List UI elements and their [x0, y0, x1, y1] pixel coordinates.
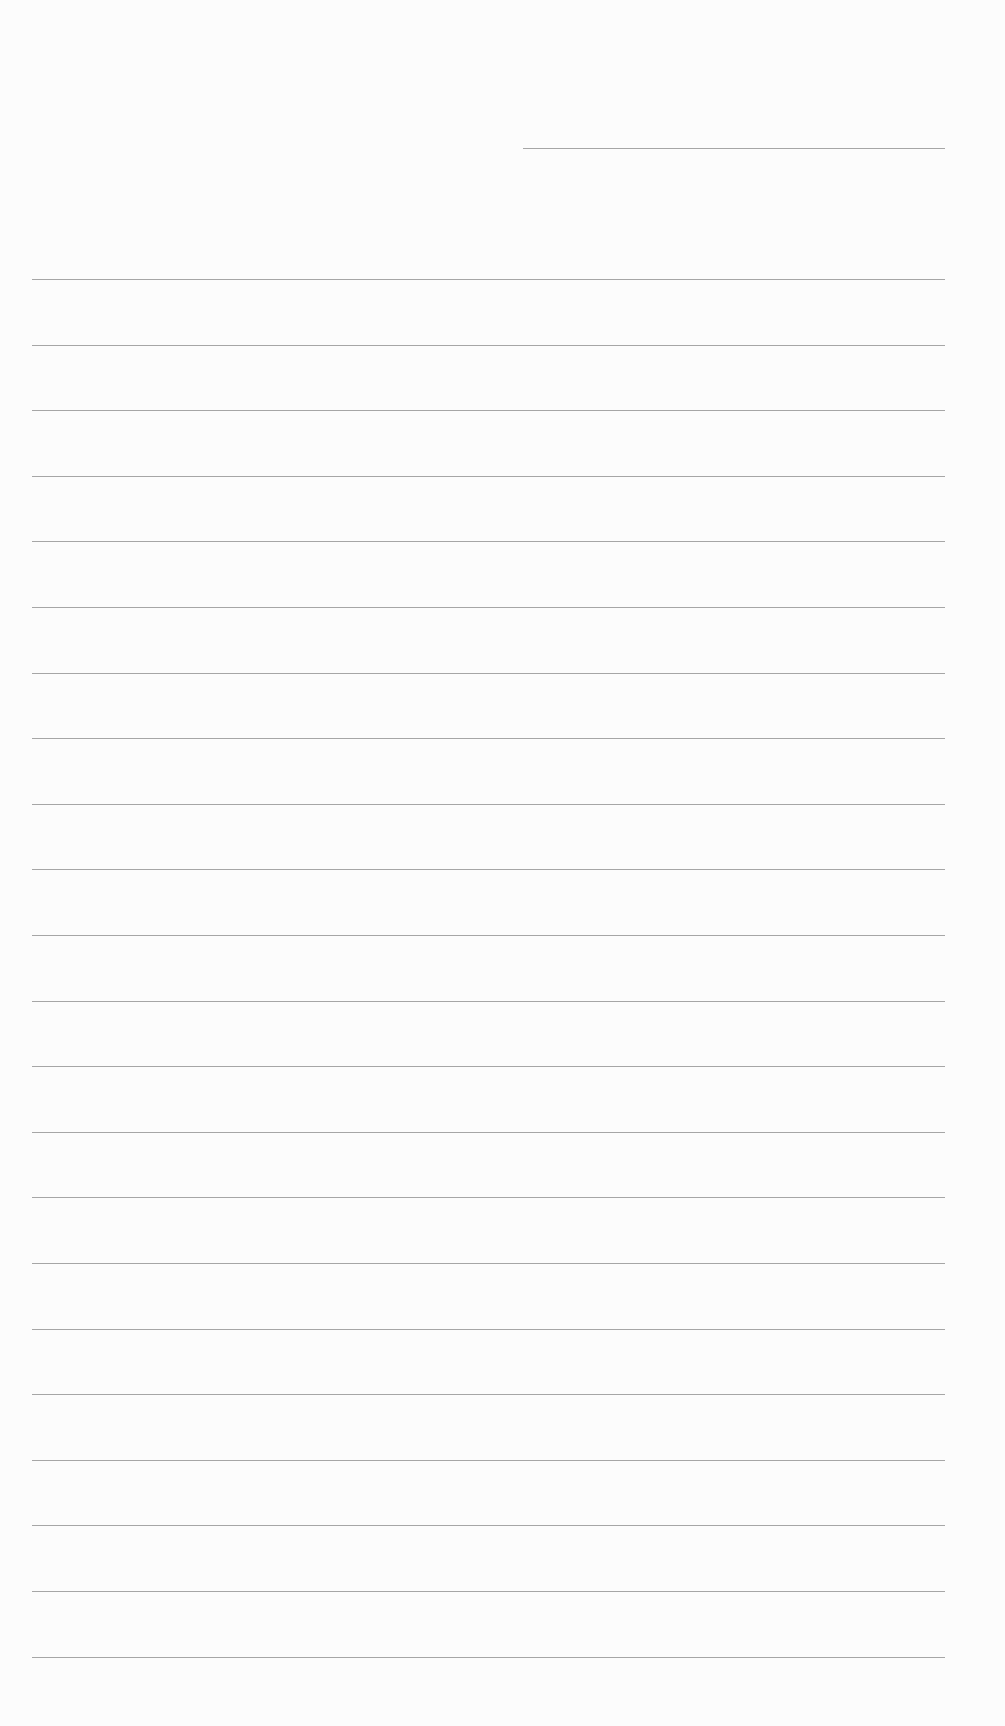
rule-line: [32, 1197, 945, 1198]
rule-line: [32, 607, 945, 608]
rule-line: [32, 345, 945, 346]
rule-line: [32, 1066, 945, 1067]
rule-line: [32, 1525, 945, 1526]
rule-line: [32, 804, 945, 805]
ruled-paper-sheet: [0, 0, 1005, 1726]
rule-line: [32, 869, 945, 870]
rule-line: [32, 476, 945, 477]
rule-line: [32, 1591, 945, 1592]
rule-line: [32, 1657, 945, 1658]
rule-line: [32, 1460, 945, 1461]
rule-line: [32, 279, 945, 280]
rule-line: [32, 1132, 945, 1133]
rule-line: [32, 738, 945, 739]
rule-line: [32, 935, 945, 936]
rule-line: [32, 1001, 945, 1002]
rule-line: [32, 410, 945, 411]
rule-line: [32, 541, 945, 542]
rule-line: [32, 1394, 945, 1395]
rule-line: [32, 1329, 945, 1330]
header-rule-line: [523, 148, 945, 149]
rule-line: [32, 673, 945, 674]
rule-line: [32, 1263, 945, 1264]
